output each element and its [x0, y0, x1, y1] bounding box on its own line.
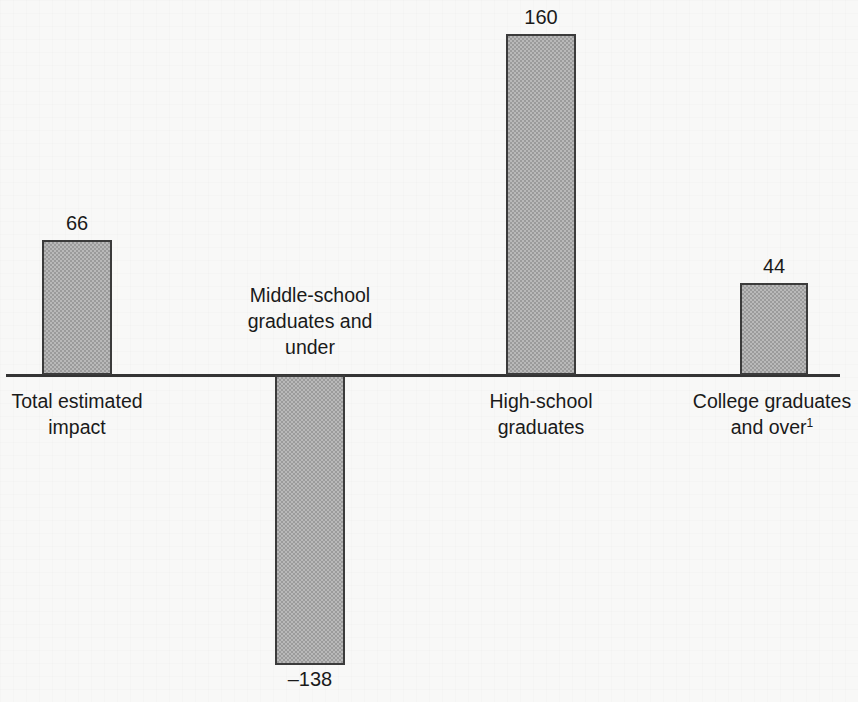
- footnote-marker: 1: [807, 416, 814, 430]
- category-label-line: College graduates: [686, 388, 858, 414]
- bar-value-label-high-school-graduates: 160: [491, 6, 591, 28]
- category-label-line: Middle-school: [225, 282, 395, 308]
- category-label-line: graduates and: [225, 308, 395, 334]
- category-label-middle-school-graduates-and-under: Middle-school graduates and under: [225, 282, 395, 360]
- category-label-college-graduates-and-over: College graduates and over1: [686, 388, 858, 440]
- category-label-high-school-graduates: High-school graduates: [461, 388, 621, 440]
- category-label-line: and over: [731, 416, 807, 438]
- category-label-line: Total estimated: [0, 388, 157, 414]
- category-label-line-with-footnote: and over1: [686, 414, 858, 440]
- bar-middle-school-graduates-and-under[interactable]: [275, 375, 345, 665]
- bar-value-label-college-graduates-and-over: 44: [724, 255, 824, 277]
- bar-value-label-total-estimated-impact: 66: [27, 212, 127, 234]
- bar-high-school-graduates[interactable]: [506, 34, 576, 375]
- category-label-line: graduates: [461, 414, 621, 440]
- bar-total-estimated-impact[interactable]: [42, 240, 112, 375]
- category-label-total-estimated-impact: Total estimated impact: [0, 388, 157, 440]
- bar-college-graduates-and-over[interactable]: [740, 283, 808, 375]
- bar-value-label-middle-school-graduates-and-under: –138: [260, 668, 360, 690]
- category-label-line: impact: [0, 414, 157, 440]
- zero-axis-line: [6, 374, 840, 377]
- bar-chart: 66 Total estimated impact –138 Middle-sc…: [0, 0, 858, 702]
- category-label-line: High-school: [461, 388, 621, 414]
- category-label-line: under: [225, 334, 395, 360]
